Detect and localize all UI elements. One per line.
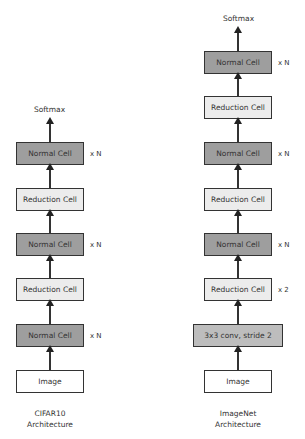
- cifar-caption: CIFAR10 Architecture: [10, 408, 90, 430]
- imagenet-caption: ImageNet Architecture: [198, 408, 278, 430]
- arrow-up-icon: [237, 28, 239, 51]
- imagenet-normal-cell-1: Normal Cell: [204, 233, 272, 256]
- arrow-up-icon: [237, 211, 239, 233]
- cifar-normal-cell-3: Normal Cell: [16, 142, 84, 165]
- imagenet-mult-3: x N: [278, 59, 290, 67]
- imagenet-normal-cell-2: Normal Cell: [204, 142, 272, 165]
- imagenet-image-input: Image: [204, 370, 272, 393]
- imagenet-mult-2: x N: [278, 150, 290, 158]
- imagenet-mult-reduction: x 2: [278, 286, 289, 294]
- cifar-mult-3: x N: [90, 150, 102, 158]
- cifar-caption-line1: CIFAR10: [10, 408, 90, 419]
- arrow-up-icon: [237, 165, 239, 188]
- cifar-mult-2: x N: [90, 241, 102, 249]
- arrow-up-icon: [237, 256, 239, 278]
- cifar-mult-1: x N: [90, 332, 102, 340]
- arrow-up-icon: [237, 347, 239, 370]
- imagenet-softmax-label: Softmax: [223, 14, 254, 23]
- cifar-softmax-label: Softmax: [34, 105, 65, 114]
- arrow-up-icon: [49, 301, 51, 324]
- cifar-image-input: Image: [16, 370, 84, 393]
- imagenet-caption-line2: Architecture: [198, 419, 278, 430]
- arrow-up-icon: [237, 301, 239, 324]
- arrow-up-icon: [237, 74, 239, 96]
- imagenet-conv-stem: 3x3 conv, stride 2: [193, 324, 283, 347]
- imagenet-reduction-cell-1: Reduction Cell: [204, 278, 272, 301]
- imagenet-caption-line1: ImageNet: [198, 408, 278, 419]
- cifar-reduction-cell-2: Reduction Cell: [16, 188, 84, 211]
- arrow-up-icon: [49, 119, 51, 142]
- cifar-normal-cell-1: Normal Cell: [16, 324, 84, 347]
- imagenet-reduction-cell-3: Reduction Cell: [204, 96, 272, 119]
- arrow-up-icon: [237, 119, 239, 142]
- cifar-reduction-cell-1: Reduction Cell: [16, 278, 84, 301]
- arrow-up-icon: [49, 165, 51, 188]
- imagenet-reduction-cell-2: Reduction Cell: [204, 188, 272, 211]
- arrow-up-icon: [49, 211, 51, 233]
- arrow-up-icon: [49, 256, 51, 278]
- cifar-normal-cell-2: Normal Cell: [16, 233, 84, 256]
- cifar-caption-line2: Architecture: [10, 419, 90, 430]
- imagenet-mult-1: x N: [278, 241, 290, 249]
- imagenet-normal-cell-3: Normal Cell: [204, 51, 272, 74]
- arrow-up-icon: [49, 347, 51, 370]
